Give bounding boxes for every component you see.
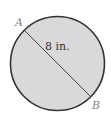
circle-diagram: A B 8 in. — [0, 0, 111, 118]
diameter-length-label: 8 in. — [45, 40, 70, 53]
point-a-label: A — [14, 16, 23, 29]
point-b-label: B — [91, 99, 100, 112]
